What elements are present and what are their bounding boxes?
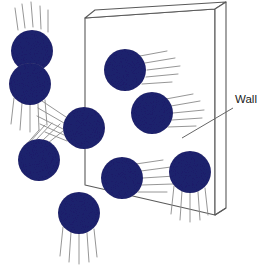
motion-trail-line	[37, 116, 63, 129]
gas-molecule	[63, 107, 105, 149]
figure-canvas	[0, 0, 273, 269]
gas-molecule	[131, 92, 173, 134]
gas-molecule	[101, 157, 143, 199]
motion-trail-line	[60, 227, 63, 256]
gas-molecule	[169, 151, 211, 193]
motion-trail-line	[22, 4, 25, 28]
motion-trail-line	[38, 108, 64, 123]
motion-trail-line	[94, 229, 97, 257]
gas-molecule	[104, 49, 146, 91]
motion-trail-line	[20, 103, 22, 130]
motion-trail-line	[11, 98, 14, 124]
motion-trail-line	[40, 6, 41, 29]
motion-trail-line	[69, 232, 71, 262]
gas-molecule	[9, 63, 51, 105]
motion-trail-line	[87, 233, 89, 262]
gas-molecule	[58, 192, 100, 234]
motion-trail-line	[31, 2, 33, 27]
motion-trail-line	[15, 8, 18, 30]
wall-side-face	[215, 2, 226, 215]
molecules-striking-wall-figure: Wall	[0, 0, 273, 269]
gas-molecule	[18, 139, 60, 181]
